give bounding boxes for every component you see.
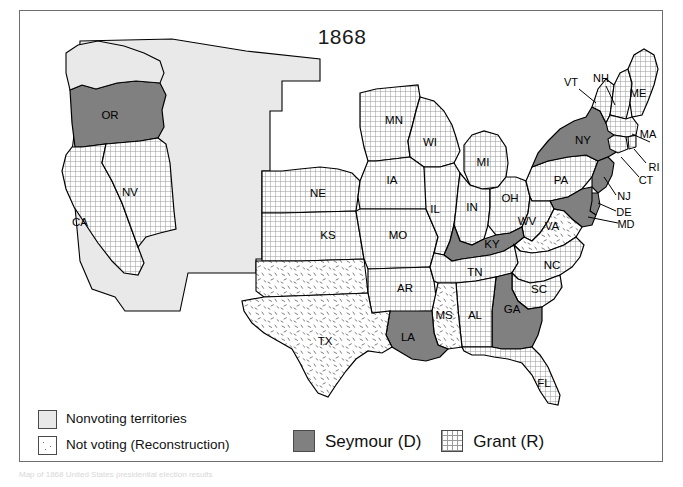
state-label-PA: PA [554,174,569,186]
state-label-MO: MO [389,229,408,241]
map-legend: Nonvoting territories Not voting (Recons… [38,406,638,458]
state-label-MD: MD [617,218,634,230]
state-label-CT: CT [639,174,654,186]
state-label-DE: DE [616,206,631,218]
state-KS [262,211,364,261]
legend-swatch-nonvoting [38,410,57,429]
state-label-MN: MN [385,114,403,126]
state-RI [628,135,636,149]
state-label-MI: MI [477,156,490,168]
legend-item-seymour: Seymour (D) [293,428,421,454]
state-label-MS: MS [435,309,453,321]
state-label-MA: MA [640,128,657,140]
state-label-TN: TN [467,266,482,278]
figure-frame: 1868 [19,10,663,462]
state-label-TX: TX [318,335,333,347]
legend-swatch-grant [441,430,463,452]
state-label-WI: WI [423,136,437,148]
legend-swatch-seymour [293,430,315,452]
state-label-NY: NY [575,134,591,146]
legend-swatch-reconstruction [38,436,57,455]
state-label-NH: NH [593,72,609,84]
legend-label-seymour: Seymour (D) [325,433,421,450]
legend-candidates: Seymour (D) Grant (R) [293,428,544,454]
state-label-VT: VT [564,76,578,88]
state-label-IN: IN [466,201,478,213]
state-label-OH: OH [501,192,518,204]
state-label-IL: IL [430,203,440,215]
state-label-NV: NV [122,186,138,198]
legend-item-grant: Grant (R) [441,428,544,454]
state-label-KY: KY [484,238,500,250]
state-label-FL: FL [537,377,551,389]
state-label-WV: WV [518,215,537,227]
us-election-map: ORNVCANEKSMNWIIAMOARILMIINOHKYTNMSALGAFL… [20,11,664,463]
state-FL [462,347,560,405]
state-label-OR: OR [101,109,118,121]
figure-caption: Map of 1868 United States presidential e… [19,470,663,479]
legend-label-reconstruction: Not voting (Reconstruction) [66,438,230,452]
state-label-SC: SC [531,283,547,295]
state-ME [628,49,658,117]
state-label-LA: LA [401,331,415,343]
state-label-AL: AL [468,309,483,321]
legend-label-grant: Grant (R) [473,433,544,450]
state-label-VA: VA [545,220,560,232]
state-label-IA: IA [387,174,398,186]
state-label-ME: ME [630,87,647,99]
state-label-NE: NE [310,187,326,199]
state-label-CA: CA [72,216,88,228]
territory-indian [256,259,368,297]
state-label-RI: RI [649,161,660,173]
state-label-NC: NC [544,259,561,271]
state-label-AR: AR [397,282,413,294]
state-label-GA: GA [504,303,521,315]
legend-label-nonvoting: Nonvoting territories [66,412,187,426]
map-svg: ORNVCANEKSMNWIIAMOARILMIINOHKYTNMSALGAFL… [20,11,664,463]
state-label-KS: KS [320,229,336,241]
state-NH [610,69,632,119]
state-label-NJ: NJ [617,190,630,202]
